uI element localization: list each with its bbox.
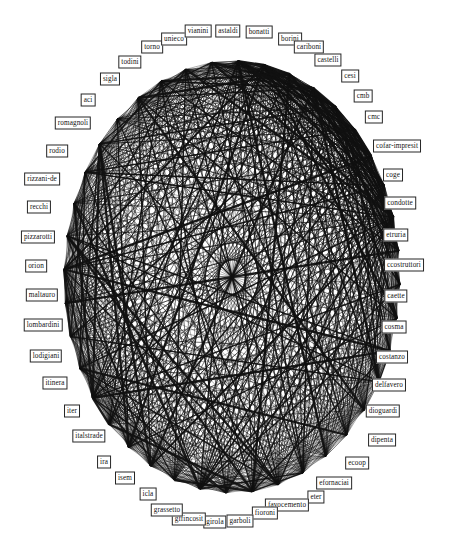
graph-node-lodigiani[interactable]: lodigiani <box>30 350 62 363</box>
graph-node-grassetto[interactable]: grassetto <box>151 504 183 517</box>
graph-node-aci[interactable]: aci <box>81 94 96 107</box>
graph-node-delfavero[interactable]: delfavero <box>372 379 406 392</box>
graph-node-cosma[interactable]: cosma <box>382 321 407 334</box>
graph-node-condotte[interactable]: condotte <box>384 197 416 210</box>
graph-node-astaldi[interactable]: astaldi <box>215 25 240 38</box>
graph-node-pizzarotti[interactable]: pizzarotti <box>21 231 55 244</box>
graph-node-vianini[interactable]: vianini <box>185 25 212 38</box>
graph-node-itinera[interactable]: itinera <box>42 377 67 390</box>
graph-node-garboli[interactable]: garboli <box>226 515 253 528</box>
graph-node-etruria[interactable]: etruria <box>383 229 408 242</box>
graph-node-castelli[interactable]: castelli <box>314 54 341 67</box>
graph-node-costanzo[interactable]: costanzo <box>376 351 408 364</box>
graph-node-cesi[interactable]: cesi <box>341 70 359 83</box>
graph-node-rizzani-de[interactable]: rizzani-de <box>24 173 60 186</box>
graph-node-coge[interactable]: coge <box>383 169 403 182</box>
graph-node-eter[interactable]: eter <box>307 491 324 504</box>
graph-node-cmb[interactable]: cmb <box>354 90 373 103</box>
graph-node-icla[interactable]: icla <box>140 488 157 501</box>
graph-node-bonatti[interactable]: bonatti <box>246 26 273 39</box>
graph-node-iter[interactable]: iter <box>64 405 80 418</box>
graph-node-ira[interactable]: ira <box>97 456 111 469</box>
graph-node-rodio[interactable]: rodio <box>46 145 68 158</box>
graph-node-dioguardi[interactable]: dioguardi <box>366 405 400 418</box>
graph-node-dipenta[interactable]: dipenta <box>368 434 396 447</box>
graph-node-recchi[interactable]: recchi <box>27 201 51 214</box>
graph-node-efornaciai[interactable]: efornaciai <box>316 477 352 490</box>
node-layer: astaldibonattiborinicaribonicastellicesi… <box>0 0 464 549</box>
graph-node-ecoop[interactable]: ecoop <box>345 457 369 470</box>
graph-node-unieco[interactable]: unieco <box>161 33 187 46</box>
graph-node-caette[interactable]: caette <box>384 290 407 303</box>
graph-node-todini[interactable]: todini <box>118 56 141 69</box>
graph-node-cofar-impresit[interactable]: cofar-impresit <box>373 140 421 153</box>
graph-node-romagnoli[interactable]: romagnoli <box>55 117 91 130</box>
graph-node-orion[interactable]: orion <box>25 260 47 273</box>
graph-node-italstrade[interactable]: italstrade <box>72 430 105 443</box>
graph-node-lombardini[interactable]: lombardini <box>24 319 63 332</box>
graph-node-ccostruttori[interactable]: ccostruttori <box>384 259 424 272</box>
graph-node-torno[interactable]: torno <box>141 41 163 54</box>
graph-node-cmc[interactable]: cmc <box>365 111 383 124</box>
graph-node-isem[interactable]: isem <box>115 472 135 485</box>
graph-node-fioroni[interactable]: fioroni <box>252 507 278 520</box>
graph-node-cariboni[interactable]: cariboni <box>294 41 324 54</box>
network-graph-figure: astaldibonattiborinicaribonicastellicesi… <box>0 0 464 549</box>
graph-node-girola[interactable]: girola <box>203 516 226 529</box>
graph-node-maltauro[interactable]: maltauro <box>26 289 58 302</box>
graph-node-sigla[interactable]: sigla <box>100 73 120 86</box>
